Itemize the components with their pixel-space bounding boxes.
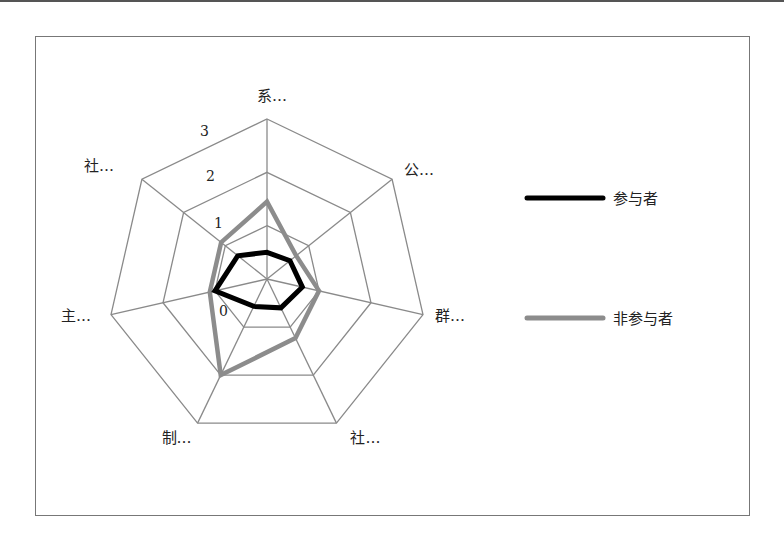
- grid-spoke: [198, 279, 267, 423]
- radar-grid: [111, 119, 423, 423]
- category-label: 群…: [435, 307, 465, 325]
- tick-label-1: 1: [214, 215, 223, 231]
- radar-chart: 系… 公… 群… 社… 制… 主… 社… 0 1 2 3 参与者 非参与者: [0, 0, 784, 554]
- category-label: 社…: [350, 429, 380, 447]
- grid-spoke: [267, 279, 336, 423]
- tick-label-0: 0: [219, 303, 228, 319]
- legend-label-non-participants: 非参与者: [613, 310, 673, 328]
- grid-spoke: [111, 279, 267, 315]
- category-label: 系…: [257, 87, 287, 105]
- legend-label-participants: 参与者: [613, 190, 658, 208]
- category-label: 社…: [84, 157, 114, 175]
- category-label: 主…: [61, 307, 91, 325]
- series-line-participants: [215, 252, 302, 307]
- grid-spoke: [267, 179, 392, 279]
- legend: 参与者 非参与者: [527, 190, 673, 328]
- grid-spoke: [142, 179, 267, 279]
- category-label: 制…: [162, 429, 192, 447]
- tick-label-3: 3: [200, 123, 209, 139]
- category-label: 公…: [404, 161, 434, 179]
- tick-label-2: 2: [206, 168, 215, 184]
